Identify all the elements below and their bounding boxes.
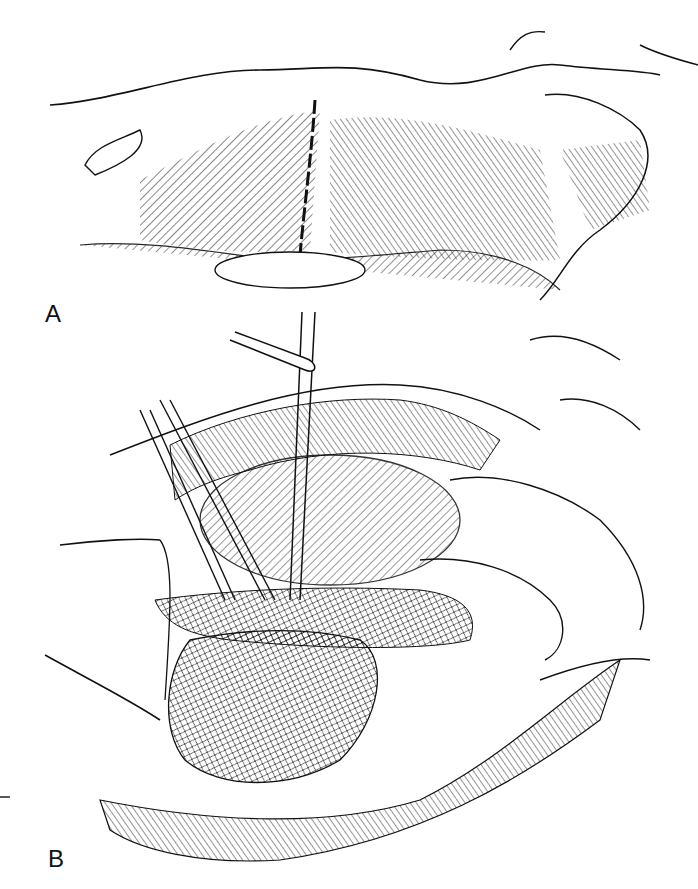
panel-label-b: B: [48, 845, 64, 873]
panel-label-a: A: [45, 300, 61, 328]
panel-a-drawing: [50, 32, 698, 300]
panel-b-drawing: [0, 312, 650, 861]
illustration: [0, 0, 698, 889]
